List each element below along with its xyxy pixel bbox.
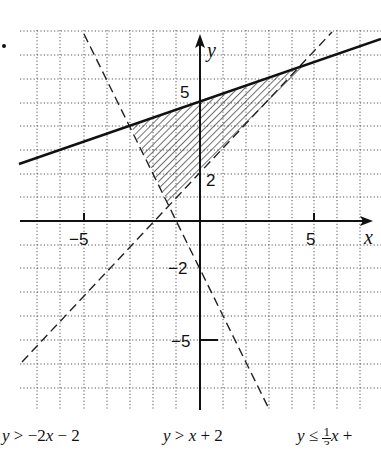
inequality-graph: x y −5 5 5 2 −2 −5 (0, 0, 381, 451)
y-axis-label: y (205, 39, 216, 62)
x-axis-label: x (363, 226, 373, 248)
y-label-pos2: 2 (206, 171, 215, 190)
x-label-neg5: −5 (69, 230, 88, 249)
solution-region (131, 67, 303, 205)
y-label-pos5: 5 (180, 83, 189, 102)
caption-inequality-2: y > x + 2 (163, 426, 223, 446)
y-label-neg2: −2 (168, 259, 187, 278)
caption-inequality-1: y > −2x − 2 (2, 426, 80, 446)
y-label-neg5: −5 (171, 332, 190, 351)
fraction: 13 (322, 426, 331, 445)
inequality-captions: y > −2x − 2 y > x + 2 y ≤ 13x + (0, 424, 381, 451)
x-label-pos5: 5 (306, 230, 315, 249)
caption-inequality-3: y ≤ 13x + (297, 426, 352, 447)
